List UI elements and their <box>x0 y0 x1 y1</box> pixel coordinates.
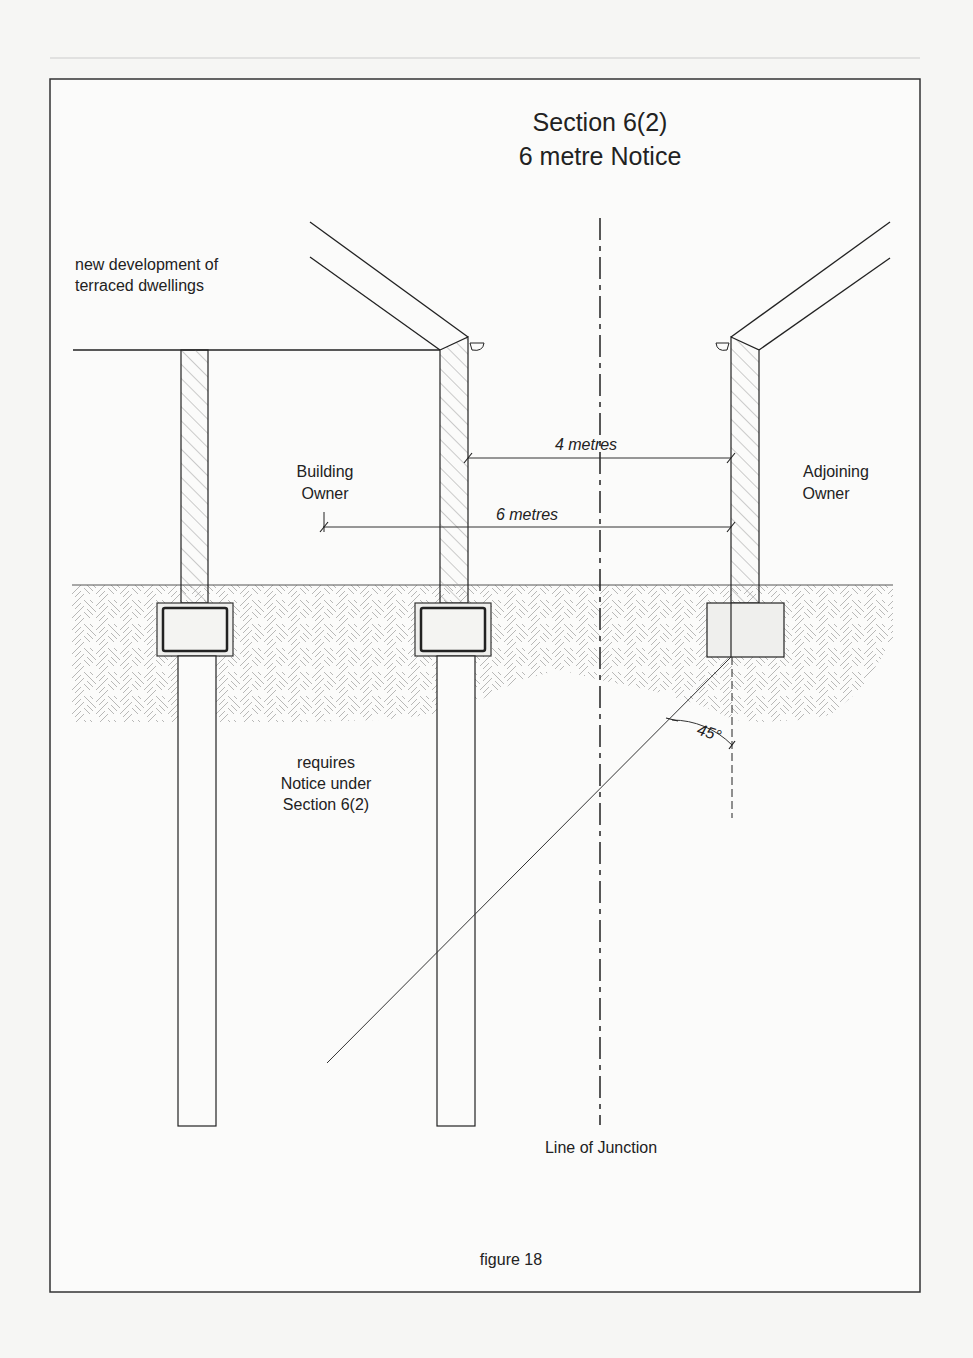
adjoining-owner-label-line-2: Owner <box>802 485 850 502</box>
building-owner-pile <box>437 656 475 1126</box>
adjoining-owner-label-line-1: Adjoining <box>803 463 869 480</box>
left-pile <box>178 656 216 1126</box>
building-owner-label-line-2: Owner <box>301 485 349 502</box>
building-owner-label-line-1: Building <box>297 463 354 480</box>
dimension-4-label: 4 metres <box>555 436 617 453</box>
left-party-wall <box>181 350 208 603</box>
development-label-line-2: terraced dwellings <box>75 277 204 294</box>
dimension-6-label: 6 metres <box>496 506 558 523</box>
adjoining-footing <box>707 603 784 657</box>
requires-label-line-2: Notice under <box>281 775 372 792</box>
development-label-line-1: new development of <box>75 256 219 273</box>
figure-caption: figure 18 <box>480 1251 542 1268</box>
line-of-junction-label: Line of Junction <box>545 1139 657 1156</box>
requires-label-line-3: Section 6(2) <box>283 796 369 813</box>
title-line-2: 6 metre Notice <box>519 142 682 170</box>
title-line-1: Section 6(2) <box>533 108 668 136</box>
left-footing <box>157 603 233 656</box>
requires-label-line-1: requires <box>297 754 355 771</box>
section-6-2-diagram: Section 6(2) 6 metre Notice <box>0 0 973 1358</box>
building-owner-footing <box>415 603 491 656</box>
